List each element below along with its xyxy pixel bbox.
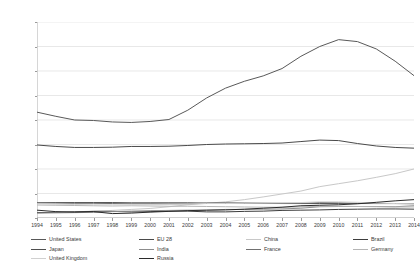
y-tick-mark (35, 47, 38, 48)
x-tick-label: 2006 (257, 222, 269, 228)
legend-item[interactable]: United Kingdom (31, 256, 87, 261)
plot-canvas (37, 22, 414, 218)
legend-item[interactable]: Japan (31, 247, 64, 252)
legend-color-swatch (31, 258, 46, 259)
x-tick-mark (263, 218, 264, 221)
legend-label: China (264, 237, 278, 242)
y-tick-mark (35, 96, 38, 97)
x-tick-mark (301, 218, 302, 221)
x-tick-mark (395, 218, 396, 221)
legend-color-swatch (139, 258, 154, 259)
chart-legend: United StatesJapanUnited KingdomEU 28Ind… (31, 237, 411, 267)
x-tick-label: 2012 (371, 222, 383, 228)
legend-item[interactable]: Brazil (353, 237, 384, 242)
x-tick-label: 2014 (408, 222, 420, 228)
x-tick-label: 2000 (144, 222, 156, 228)
legend-color-swatch (139, 239, 154, 240)
y-tick-mark (35, 22, 38, 23)
x-tick-mark (226, 218, 227, 221)
x-tick-mark (244, 218, 245, 221)
x-tick-mark (357, 218, 358, 221)
x-tick-mark (339, 218, 340, 221)
x-tick-label: 2004 (220, 222, 232, 228)
x-tick-label: 2009 (314, 222, 326, 228)
y-tick-mark (35, 120, 38, 121)
x-tick-label: 1994 (31, 222, 43, 228)
plot-area: 0100200300400500600700800 19941995199619… (37, 22, 414, 218)
legend-color-swatch (246, 239, 261, 240)
legend-color-swatch (353, 249, 368, 250)
x-tick-mark (150, 218, 151, 221)
x-tick-label: 1999 (125, 222, 137, 228)
legend-color-swatch (139, 249, 154, 250)
legend-label: Japan (49, 247, 64, 252)
legend-item[interactable]: Germany (353, 247, 393, 252)
legend-item[interactable]: India (139, 247, 169, 252)
x-tick-label: 2011 (352, 222, 363, 228)
x-tick-mark (320, 218, 321, 221)
x-tick-mark (56, 218, 57, 221)
x-tick-label: 2003 (201, 222, 213, 228)
legend-label: Brazil (371, 237, 384, 242)
x-tick-mark (37, 218, 38, 221)
legend-label: Germany (371, 247, 393, 252)
x-tick-mark (376, 218, 377, 221)
legend-item[interactable]: Russia (139, 256, 173, 261)
legend-label: EU 28 (157, 237, 172, 242)
legend-color-swatch (246, 249, 261, 250)
x-tick-mark (75, 218, 76, 221)
x-tick-label: 1996 (69, 222, 81, 228)
x-tick-label: 2002 (182, 222, 194, 228)
x-tick-label: 2007 (276, 222, 288, 228)
x-tick-label: 2013 (389, 222, 401, 228)
y-tick-mark (35, 71, 38, 72)
x-tick-mark (94, 218, 95, 221)
legend-item[interactable]: EU 28 (139, 237, 172, 242)
y-tick-mark (35, 194, 38, 195)
legend-label: Russia (157, 256, 173, 261)
line-chart: US $bn., constant 2011 prices 0100200300… (0, 0, 420, 271)
legend-color-swatch (353, 239, 368, 240)
legend-label: India (157, 247, 169, 252)
x-tick-label: 1995 (50, 222, 62, 228)
x-tick-mark (131, 218, 132, 221)
legend-item[interactable]: China (246, 237, 278, 242)
x-tick-mark (282, 218, 283, 221)
x-tick-mark (112, 218, 113, 221)
x-tick-label: 2008 (295, 222, 307, 228)
y-tick-mark (35, 145, 38, 146)
x-tick-label: 1998 (107, 222, 119, 228)
x-tick-label: 2001 (163, 222, 175, 228)
legend-label: United Kingdom (49, 256, 87, 261)
legend-item[interactable]: France (246, 247, 281, 252)
x-tick-mark (207, 218, 208, 221)
x-tick-label: 1997 (88, 222, 100, 228)
legend-label: United States (49, 237, 81, 242)
x-tick-label: 2010 (333, 222, 345, 228)
x-tick-mark (169, 218, 170, 221)
x-tick-mark (188, 218, 189, 221)
legend-item[interactable]: United States (31, 237, 81, 242)
legend-color-swatch (31, 239, 46, 240)
legend-label: France (264, 247, 281, 252)
legend-color-swatch (31, 249, 46, 250)
x-tick-label: 2005 (239, 222, 251, 228)
y-tick-mark (35, 169, 38, 170)
x-tick-mark (414, 218, 415, 221)
